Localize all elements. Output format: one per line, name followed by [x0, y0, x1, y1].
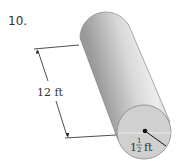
extension-line-top: [34, 45, 79, 49]
radius-unit: ft: [144, 141, 153, 154]
dimension-line-upper: [38, 51, 48, 81]
radius-whole: 1: [130, 141, 137, 154]
radius-numerator: 1: [137, 137, 141, 145]
dimension-line-lower: [56, 101, 67, 136]
extension-line-bottom: [65, 135, 116, 138]
cylinder-diagram: 12 ft 1 1 2 ft: [0, 0, 181, 161]
length-label: 12 ft: [37, 86, 64, 99]
radius-denominator: 2: [137, 146, 141, 154]
